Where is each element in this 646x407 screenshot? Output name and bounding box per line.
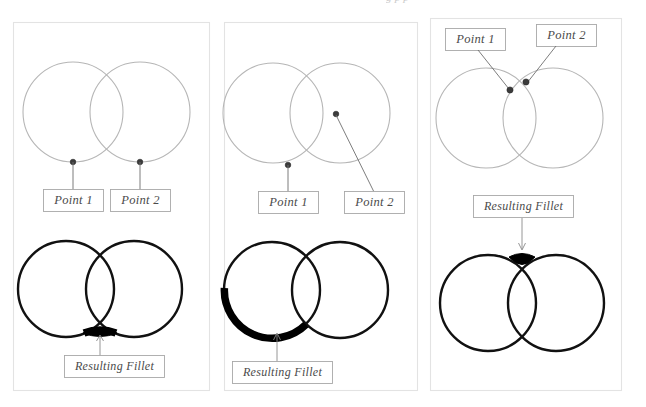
panel-1-fillet-label: Resulting Fillet [74,359,154,373]
panel-1-point-2-label: Point 2 [120,193,160,207]
fillet-diagram-svg: Point 1 Point 2 Resulting Fillet Point 1… [0,0,646,407]
panel-2-fillet-label: Resulting Fillet [242,365,322,379]
panel-2-point-1-label: Point 1 [268,195,308,209]
panel-1-resulting-fillet-arc [84,330,116,333]
panel-3-point-2-marker [523,79,529,85]
panel-3-point-1-marker [507,87,513,93]
diagram-stage: g p p Point 1 Point 2 Resulting Fillet [0,0,646,407]
panel-3-fillet-label: Resulting Fillet [483,199,563,213]
panel-3-point-1-label: Point 1 [455,32,495,46]
panel-1-point-1-label: Point 1 [53,193,93,207]
panel-3-point-2-label: Point 2 [546,28,586,42]
panel-2-point-2-label: Point 2 [354,195,394,209]
